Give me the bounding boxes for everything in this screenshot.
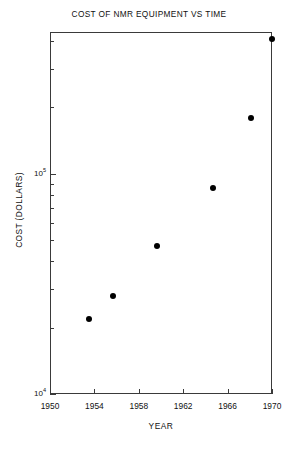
data-point	[248, 115, 254, 121]
x-axis-tick-label: 1958	[129, 401, 148, 411]
x-axis-tick-labels: 195019541958196219661970	[50, 394, 272, 414]
x-axis-tick-label: 1970	[263, 401, 282, 411]
data-point	[154, 243, 160, 249]
data-point	[210, 185, 216, 191]
x-axis-tick-label: 1962	[174, 401, 193, 411]
x-axis-title: YEAR	[50, 421, 272, 431]
data-point	[86, 316, 92, 322]
x-axis-tick-label: 1954	[85, 401, 104, 411]
data-point	[110, 293, 116, 299]
x-axis-tick	[272, 389, 273, 394]
y-axis-tick-label: 104	[34, 389, 46, 398]
x-axis-tick-label: 1950	[41, 401, 60, 411]
data-point	[269, 36, 275, 42]
y-axis-tick-label: 105	[34, 169, 46, 178]
y-axis-title: COST (DOLLARS)	[14, 150, 24, 270]
x-axis-tick-label: 1966	[218, 401, 237, 411]
chart-figure: COST OF NMR EQUIPMENT VS TIME 104105 195…	[0, 0, 298, 453]
data-point-layer	[50, 32, 272, 394]
chart-title: COST OF NMR EQUIPMENT VS TIME	[0, 9, 298, 19]
